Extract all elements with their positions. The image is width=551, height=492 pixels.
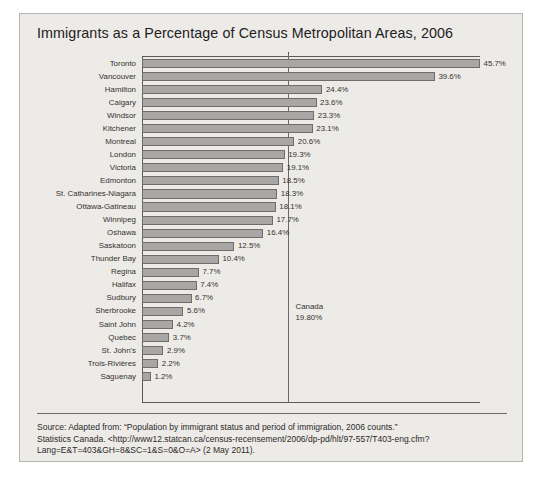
bar-value-label: 17.7% <box>276 216 298 224</box>
bar-category-label: Vancouver <box>37 73 142 81</box>
bar-category-label: Winnipeg <box>37 216 142 224</box>
bar-value-label: 23.3% <box>318 112 340 120</box>
bar-category-label: St. Catharines-Niagara <box>37 190 142 198</box>
bar-row: Windsor23.3% <box>37 109 507 122</box>
bar-value-label: 16.4% <box>267 229 289 237</box>
canada-annotation-label: Canada <box>295 302 323 313</box>
bar-value-label: 20.6% <box>298 138 320 146</box>
bar <box>142 176 279 185</box>
bar-category-label: Edmonton <box>37 177 142 185</box>
bar-row: St. John's2.9% <box>37 344 507 357</box>
bar-row: Regina7.7% <box>37 266 507 279</box>
bar <box>142 137 294 146</box>
bar-row: Vancouver39.6% <box>37 70 507 83</box>
bar <box>142 346 163 355</box>
bar-track: 5.6% <box>142 305 507 318</box>
bar-value-label: 3.7% <box>173 334 191 342</box>
bar-track: 23.6% <box>142 96 507 109</box>
bar-category-label: Saguenay <box>37 373 142 381</box>
bar-track: 2.2% <box>142 357 507 370</box>
canada-annotation-value: 19.80% <box>295 313 323 324</box>
bar-track: 1.2% <box>142 370 507 383</box>
bar-row: St. Catharines-Niagara18.3% <box>37 187 507 200</box>
bar-value-label: 45.7% <box>484 60 506 68</box>
bar-track: 18.1% <box>142 201 507 214</box>
bar-value-label: 18.3% <box>281 190 303 198</box>
bar-track: 2.9% <box>142 344 507 357</box>
bar-value-label: 2.2% <box>162 360 180 368</box>
bar-value-label: 39.6% <box>438 73 460 81</box>
bar-category-label: Toronto <box>37 60 142 68</box>
bar <box>142 294 192 303</box>
bar <box>142 333 169 342</box>
bar <box>142 59 480 68</box>
bar <box>142 111 314 120</box>
bar-row: Edmonton18.5% <box>37 174 507 187</box>
bar <box>142 98 317 107</box>
bar <box>142 359 158 368</box>
bar-track: 19.1% <box>142 161 507 174</box>
bar-track: 7.4% <box>142 279 507 292</box>
footer-divider <box>37 413 507 414</box>
bar-row: Kitchener23.1% <box>37 122 507 135</box>
bar <box>142 202 276 211</box>
bar-track: 10.4% <box>142 253 507 266</box>
bar-row: Saguenay1.2% <box>37 370 507 383</box>
source-note: Source: Adapted from: “Population by imm… <box>37 422 515 457</box>
bar-track: 39.6% <box>142 70 507 83</box>
bar-track: 3.7% <box>142 331 507 344</box>
bar-value-label: 5.6% <box>187 307 205 315</box>
bar-value-label: 18.5% <box>282 177 304 185</box>
bar-row: Ottawa-Gatineau18.1% <box>37 201 507 214</box>
bar <box>142 163 283 172</box>
bar-category-label: Sherbrooke <box>37 307 142 315</box>
bar-value-label: 19.3% <box>288 151 310 159</box>
bar-row: Montreal20.6% <box>37 135 507 148</box>
bar-category-label: Thunder Bay <box>37 255 142 263</box>
bar-track: 7.7% <box>142 266 507 279</box>
bar-value-label: 12.5% <box>238 242 260 250</box>
bar <box>142 307 183 316</box>
bar-row: Hamilton24.4% <box>37 83 507 96</box>
bar-track: 18.3% <box>142 187 507 200</box>
bar-row: Halifax7.4% <box>37 279 507 292</box>
bar-value-label: 7.7% <box>202 268 220 276</box>
bar-row: Saint John4.2% <box>37 318 507 331</box>
bar-category-label: Kitchener <box>37 125 142 133</box>
chart-card: Immigrants as a Percentage of Census Met… <box>19 13 523 462</box>
bar-value-label: 2.9% <box>167 347 185 355</box>
bar-value-label: 6.7% <box>195 294 213 302</box>
bar-row: Calgary23.6% <box>37 96 507 109</box>
bar <box>142 372 151 381</box>
bar <box>142 229 263 238</box>
bar-category-label: Windsor <box>37 112 142 120</box>
bar-row: Victoria19.1% <box>37 161 507 174</box>
bar <box>142 124 313 133</box>
bar-track: 12.5% <box>142 240 507 253</box>
bar <box>142 189 277 198</box>
bar-category-label: Oshawa <box>37 229 142 237</box>
bar-track: 16.4% <box>142 227 507 240</box>
bar-track: 17.7% <box>142 214 507 227</box>
bar-value-label: 1.2% <box>154 373 172 381</box>
bar-rows: Toronto45.7%Vancouver39.6%Hamilton24.4%C… <box>37 57 507 402</box>
bar-value-label: 4.2% <box>177 321 195 329</box>
bar-category-label: Montreal <box>37 138 142 146</box>
source-line-3: Lang=E&T=403&GH=8&SC=1&S=0&O=A> (2 May 2… <box>37 445 515 457</box>
bar <box>142 320 173 329</box>
bar-value-label: 18.1% <box>279 203 301 211</box>
bar-row: Sudbury6.7% <box>37 292 507 305</box>
bar-row: Toronto45.7% <box>37 57 507 70</box>
bar-track: 20.6% <box>142 135 507 148</box>
bar-row: Trois-Rivières2.2% <box>37 357 507 370</box>
bar-category-label: Sudbury <box>37 294 142 302</box>
bar <box>142 216 273 225</box>
bar-track: 23.3% <box>142 109 507 122</box>
bar-row: Quebec3.7% <box>37 331 507 344</box>
bar <box>142 150 285 159</box>
bar-track: 18.5% <box>142 174 507 187</box>
bar-category-label: Regina <box>37 268 142 276</box>
bar-track: 23.1% <box>142 122 507 135</box>
bar-category-label: Trois-Rivières <box>37 360 142 368</box>
bar-category-label: Quebec <box>37 334 142 342</box>
